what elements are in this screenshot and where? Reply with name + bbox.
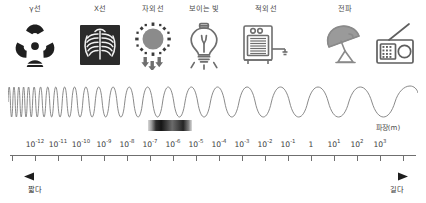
axis-tick-label: 10-12 — [26, 140, 44, 149]
light-bulb-icon — [176, 17, 232, 73]
axis-tick-label: 10-2 — [257, 140, 272, 149]
axis-tick-label: 10-6 — [165, 140, 180, 149]
axis-tick-label: 10-1 — [280, 140, 295, 149]
wavelength-scale-notes: 짧다 길다 — [0, 171, 426, 203]
short-wavelength-label: 짧다 — [28, 184, 42, 194]
axis-tick-label: 10-3 — [234, 140, 249, 149]
axis-tick-label: 10-5 — [188, 140, 203, 149]
axis-tick-label: 10-8 — [119, 140, 134, 149]
axis-tick — [127, 155, 128, 161]
axis-tick — [357, 155, 358, 161]
long-wavelength-label: 길다 — [390, 184, 404, 194]
radiation-trefoil-icon — [7, 17, 63, 73]
axis-tick — [288, 155, 289, 161]
axis-tick-label: 102 — [350, 140, 363, 149]
band-icon-row — [0, 17, 426, 73]
short-wavelength-arrow — [22, 171, 112, 183]
axis-tick-label: 10-10 — [72, 140, 90, 149]
axis-tick-label: 10-7 — [142, 140, 157, 149]
axis-tick — [104, 155, 105, 161]
band-label-radio: 전파 — [338, 4, 352, 14]
axis-tick-label: 10-11 — [49, 140, 67, 149]
wavelength-axis-line — [10, 155, 416, 156]
band-label-gamma: γ선 — [29, 4, 40, 14]
axis-tick — [242, 155, 243, 161]
axis-tick-label: 101 — [327, 140, 340, 149]
band-label-visible: 보이는 빛 — [189, 4, 220, 14]
axis-tick — [81, 155, 82, 161]
long-wavelength-arrow — [320, 171, 410, 183]
chest-xray-icon — [72, 17, 128, 73]
axis-tick-label: 1 — [309, 140, 314, 149]
axis-tick — [219, 155, 220, 161]
axis-tick — [403, 155, 404, 161]
visible-spectrum-gradient — [148, 120, 192, 131]
uv-sun-icon — [125, 17, 181, 73]
satellite-dish-icon — [317, 17, 373, 73]
axis-tick-label: 10-9 — [96, 140, 111, 149]
axis-tick — [265, 155, 266, 161]
wavelength-wave — [8, 76, 418, 128]
axis-tick — [35, 155, 36, 161]
radio-icon — [368, 17, 424, 73]
axis-tick — [150, 155, 151, 161]
electromagnetic-spectrum-diagram: γ선 X선 자외선 보이는 빛 적외선 전파 — [0, 0, 426, 203]
axis-tick — [173, 155, 174, 161]
axis-title: 파장(m) — [376, 122, 400, 132]
band-label-xray: X선 — [94, 4, 106, 14]
heater-icon — [238, 17, 294, 73]
axis-tick — [380, 155, 381, 161]
axis-tick — [12, 155, 13, 161]
axis-tick — [58, 155, 59, 161]
band-label-infrared: 적외선 — [255, 4, 276, 14]
band-label-row: γ선 X선 자외선 보이는 빛 적외선 전파 — [0, 4, 426, 18]
axis-tick-label: 10-4 — [211, 140, 226, 149]
axis-tick — [196, 155, 197, 161]
axis-tick-label: 103 — [373, 140, 386, 149]
axis-tick — [311, 155, 312, 161]
band-label-uv: 자외선 — [142, 4, 163, 14]
axis-tick — [334, 155, 335, 161]
